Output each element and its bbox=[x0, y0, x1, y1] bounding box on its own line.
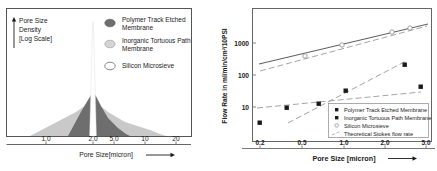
legend-swatch-inorganic-tortuous-path bbox=[105, 40, 115, 48]
right-ytick-100: 100 bbox=[238, 72, 249, 79]
right-chart-legend: Polymer Track Etched Membrane Inorganic … bbox=[329, 104, 432, 138]
right-ytick-10: 10 bbox=[242, 104, 250, 111]
right-x-axis-label: Pore Size [micron] bbox=[312, 154, 375, 163]
left-x-axis-label: Pore Size[micron] bbox=[79, 151, 133, 159]
right-xtick-0-2: 0.2 bbox=[256, 139, 265, 146]
left-y-axis-label-line1: Pore Size bbox=[19, 17, 48, 24]
left-xtick-2: 2.0 bbox=[88, 135, 97, 142]
left-y-axis-label-line2: Density bbox=[19, 26, 42, 34]
right-xtick-2-0: 2.0 bbox=[381, 139, 390, 146]
legend-label-inorganic-line1: Inorganic Tortuous Path bbox=[122, 37, 191, 45]
left-xtick-1: 1.0 bbox=[41, 135, 50, 142]
pore-size-distribution-chart: Pore Size Density [Log Scale] Polymer Tr… bbox=[0, 0, 216, 171]
right-xtick-5-0: 5.0 bbox=[422, 139, 431, 146]
legend-label-polymer-line2: Membrane bbox=[122, 24, 153, 31]
figure-pair: Pore Size Density [Log Scale] Polymer Tr… bbox=[0, 0, 437, 171]
right-y-axis-label: Flow Rate in ml/min/cm²/10PSI bbox=[221, 28, 228, 123]
flow-rate-vs-pore-size-chart: Flow Rate in ml/min/cm²/10PSI 1000 100 1… bbox=[216, 0, 437, 171]
legend-label-silicon-microsieve: Silicon Microsieve bbox=[122, 62, 174, 69]
left-xtick-4: 10 bbox=[141, 135, 149, 142]
legend-label-inorganic-tortuous-path: Inorganic Tortuous Path Membrane bbox=[344, 115, 431, 121]
right-x-axis-arrow bbox=[388, 156, 417, 160]
legend-label-polymer-line1: Polymer Track Etched bbox=[122, 16, 186, 24]
left-chart-svg: Pore Size Density [Log Scale] Polymer Tr… bbox=[0, 0, 216, 171]
legend-label-polymer-track-etched: Polymer Track Etched Membrane bbox=[344, 107, 427, 113]
legend-marker-silicon-microsieve bbox=[335, 124, 339, 128]
legend-label-theoretical-stokes-flow-rate: Theoretical Stokes flow rate bbox=[344, 131, 413, 137]
right-xtick-1-0: 1.0 bbox=[340, 139, 349, 146]
legend-swatch-polymer-track-etched bbox=[105, 19, 115, 27]
legend-swatch-silicon-microsieve bbox=[105, 62, 115, 70]
left-xtick-5: 20 bbox=[172, 135, 180, 142]
right-xtick-0-5: 0.5 bbox=[298, 139, 307, 146]
right-chart-svg: Flow Rate in ml/min/cm²/10PSI 1000 100 1… bbox=[216, 0, 437, 171]
left-xtick-3: 5.0 bbox=[109, 135, 118, 142]
legend-marker-polymer-track-etched bbox=[335, 108, 338, 111]
left-x-axis-arrow bbox=[146, 153, 175, 157]
legend-marker-inorganic-tortuous-path bbox=[335, 116, 338, 119]
legend-label-inorganic-line2: Membrane bbox=[122, 45, 153, 52]
legend-label-silicon-microsieve: Silicon Microsieve bbox=[344, 123, 389, 129]
right-ytick-1000: 1000 bbox=[234, 40, 249, 47]
left-y-axis-label-line3: [Log Scale] bbox=[19, 35, 52, 43]
